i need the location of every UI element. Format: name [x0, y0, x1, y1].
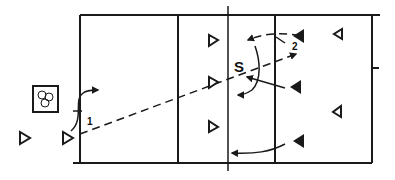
blocker-icon	[293, 134, 304, 148]
pass-1-dashed-line	[80, 54, 296, 134]
team-a-players	[20, 35, 218, 144]
player-icon	[209, 121, 218, 132]
team-b-back-row	[333, 29, 342, 117]
volleyball-drill-diagram: 1 2 S	[0, 0, 395, 180]
player-icon	[209, 35, 218, 46]
block-arrow-mid	[247, 77, 285, 88]
player-icon	[209, 77, 218, 88]
player-icon	[333, 106, 341, 117]
setter-label: S	[234, 58, 244, 75]
ball-basket-icon	[33, 86, 58, 112]
step-2-label: 2	[292, 41, 298, 52]
player-icon	[334, 29, 342, 39]
step-2-tick	[276, 37, 285, 43]
player-icon	[63, 132, 73, 144]
court	[73, 6, 380, 171]
ball-path	[80, 34, 300, 134]
block-arrow-low	[232, 144, 285, 153]
step-1-label: 1	[87, 116, 93, 127]
player-icon	[20, 132, 30, 144]
blocker-icon	[290, 80, 301, 94]
